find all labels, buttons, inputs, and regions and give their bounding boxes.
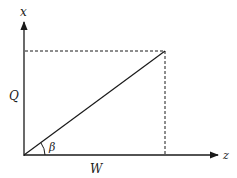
resultant-line xyxy=(24,51,165,155)
angle-arc xyxy=(41,143,45,155)
vertical-component-label: Q xyxy=(9,89,19,103)
angle-label: β xyxy=(48,141,55,154)
vector-diagram: x z β Q W xyxy=(0,0,237,178)
vertical-axis-label: x xyxy=(20,5,27,19)
horizontal-component-label: W xyxy=(90,162,104,176)
horizontal-axis-label: z xyxy=(222,149,229,162)
